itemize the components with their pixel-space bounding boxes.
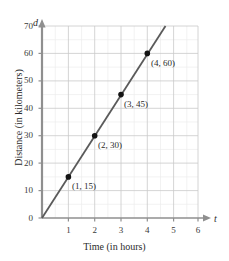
data-point-4-60: [145, 51, 151, 57]
point-annotation-2-30: (2, 30): [98, 140, 122, 150]
x-tick-label-1: 1: [61, 226, 75, 235]
x-tick-label-5: 5: [167, 226, 181, 235]
x-axis-caption: Time (in hours): [0, 241, 229, 252]
point-annotation-4-60: (4, 60): [151, 58, 175, 68]
major-horizontal-gridlines: [42, 26, 198, 191]
x-tick-label-4: 4: [140, 226, 154, 235]
y-axis: [38, 19, 45, 218]
data-point-2-30: [92, 133, 98, 139]
point-annotation-3-45: (3, 45): [124, 99, 148, 109]
y-tick-label-70: 70: [15, 22, 33, 31]
x-axis-arrowhead: [203, 215, 211, 222]
x-tick-label-2: 2: [88, 226, 102, 235]
plot-canvas: [0, 0, 229, 261]
data-point-3-45: [118, 92, 124, 98]
point-annotation-1-15: (1, 15): [72, 181, 96, 191]
distance-time-graph-figure: d t 70 60 50 40 30 20 10 0 1 2 3 4 5 6 (…: [0, 0, 229, 261]
y-axis-variable-label: d: [33, 17, 38, 28]
x-tick-label-6: 6: [191, 226, 205, 235]
x-axis-variable-label: t: [214, 213, 217, 224]
x-tick-label-3: 3: [114, 226, 128, 235]
data-point-1-15: [66, 174, 72, 180]
x-axis: [42, 215, 211, 222]
y-axis-caption: Distance (in kilometers): [13, 43, 24, 193]
y-tick-label-0: 0: [15, 214, 33, 223]
